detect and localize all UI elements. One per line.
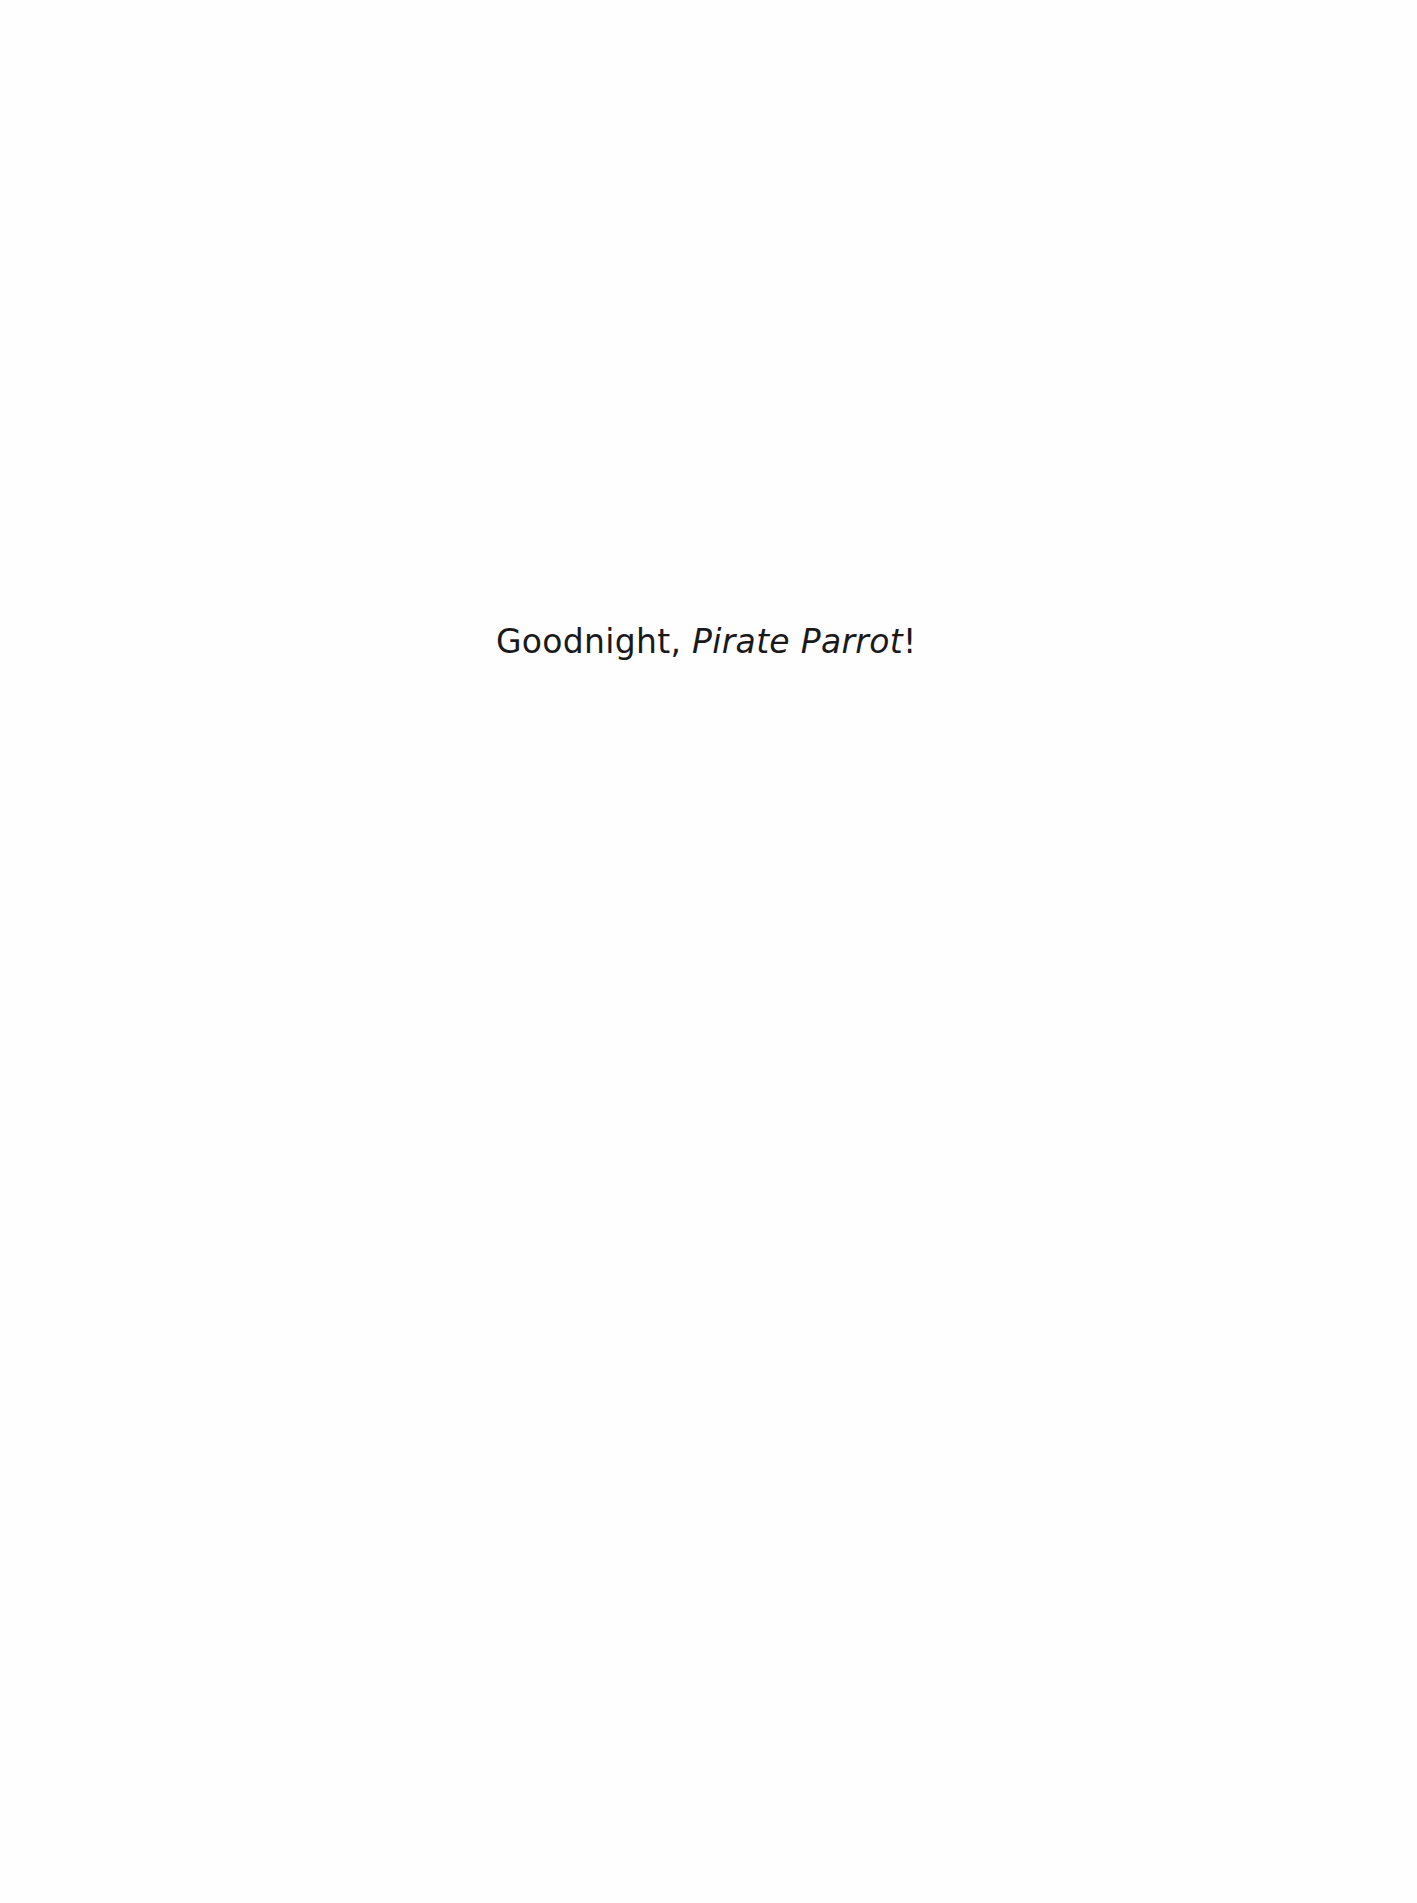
book-page: Goodnight, Pirate Parrot! [0, 0, 1417, 1903]
dedication-prefix: Goodnight, [496, 622, 692, 661]
dedication-suffix: ! [903, 622, 917, 661]
book-title: Pirate Parrot [692, 622, 903, 661]
dedication-line: Goodnight, Pirate Parrot! [496, 622, 916, 662]
